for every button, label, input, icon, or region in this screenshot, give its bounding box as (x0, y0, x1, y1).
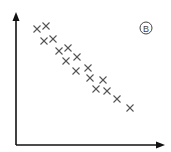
x-marker-icon (65, 45, 72, 52)
x-marker-icon (74, 54, 81, 61)
panel-label-text: B (143, 24, 149, 34)
x-marker-icon (85, 65, 92, 72)
data-points (34, 23, 134, 112)
x-marker-icon (73, 68, 80, 75)
scatter-chart: B (0, 0, 171, 152)
x-marker-icon (127, 105, 134, 112)
y-axis-arrow-icon (13, 12, 20, 21)
x-marker-icon (87, 75, 94, 82)
x-marker-icon (100, 77, 107, 84)
x-marker-icon (41, 38, 48, 45)
panel-label: B (140, 22, 152, 34)
x-marker-icon (43, 23, 50, 30)
x-marker-icon (63, 58, 70, 65)
x-marker-icon (34, 26, 41, 33)
x-marker-icon (93, 86, 100, 93)
x-marker-icon (50, 36, 57, 43)
x-marker-icon (56, 48, 63, 55)
x-axis (16, 142, 165, 149)
x-marker-icon (114, 96, 121, 103)
x-axis-arrow-icon (156, 142, 165, 149)
y-axis (13, 12, 20, 145)
x-marker-icon (104, 88, 111, 95)
